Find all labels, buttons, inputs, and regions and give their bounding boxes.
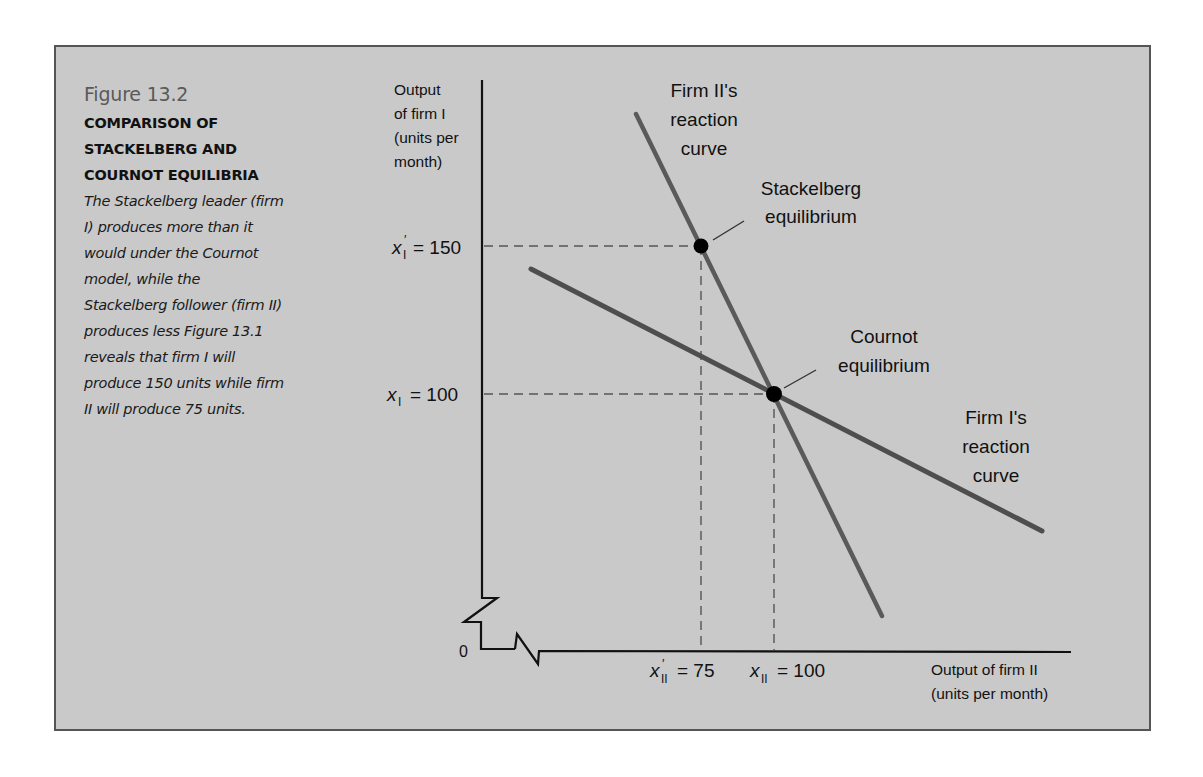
svg-text:Output of firm II: Output of firm II (931, 661, 1038, 678)
svg-text:Cournot: Cournot (850, 326, 918, 347)
x-tick-stackelberg: x ′ II = 75 (649, 656, 715, 686)
svg-text:reaction: reaction (670, 109, 738, 130)
svg-text:Firm II's: Firm II's (671, 80, 738, 101)
y-tick-stackelberg: x ′ I = 150 (391, 232, 461, 262)
firm1-reaction-curve (531, 269, 1042, 531)
svg-text:x: x (391, 237, 403, 258)
svg-text:Firm I's: Firm I's (965, 407, 1027, 428)
y-axis-label: Output of firm I (units per month) (394, 81, 459, 170)
stackelberg-equilibrium-point (694, 239, 709, 254)
firm2-curve-label: Firm II's reaction curve (670, 80, 738, 159)
y-axis (464, 80, 515, 649)
svg-text:x: x (649, 660, 661, 681)
x-axis-label: Output of firm II (units per month) (931, 661, 1048, 702)
stackelberg-pointer (713, 221, 744, 240)
svg-text:equilibrium: equilibrium (765, 206, 857, 227)
svg-text:Stackelberg: Stackelberg (761, 178, 861, 199)
stackelberg-label: Stackelberg equilibrium (761, 178, 861, 227)
svg-text:= 150: = 150 (413, 237, 461, 258)
svg-text:= 100: = 100 (410, 384, 458, 405)
x-tick-cournot: x II = 100 (749, 660, 825, 686)
svg-text:x: x (749, 660, 761, 681)
svg-text:= 75: = 75 (677, 660, 715, 681)
y-tick-cournot: x I = 100 (386, 384, 458, 409)
cournot-pointer (784, 370, 816, 388)
svg-text:I: I (398, 395, 401, 409)
svg-text:′: ′ (662, 656, 665, 671)
svg-text:curve: curve (973, 465, 1019, 486)
svg-text:equilibrium: equilibrium (838, 355, 930, 376)
cournot-equilibrium-point (766, 386, 782, 402)
svg-text:curve: curve (681, 138, 727, 159)
svg-text:x: x (386, 384, 398, 405)
svg-text:(units per month): (units per month) (931, 685, 1048, 702)
svg-text:′: ′ (404, 232, 407, 247)
svg-text:= 100: = 100 (777, 660, 825, 681)
svg-text:of firm I: of firm I (394, 105, 446, 122)
reaction-curve-chart: Output of firm I (units per month) x ′ I… (0, 0, 1203, 777)
svg-text:reaction: reaction (962, 436, 1030, 457)
svg-text:month): month) (394, 153, 442, 170)
cournot-label: Cournot equilibrium (838, 326, 930, 376)
firm1-curve-label: Firm I's reaction curve (962, 407, 1030, 486)
svg-text:II: II (661, 672, 668, 686)
svg-text:Output: Output (394, 81, 441, 98)
svg-text:I: I (403, 248, 406, 262)
svg-text:(units per: (units per (394, 129, 459, 146)
svg-text:II: II (761, 672, 768, 686)
origin-label: 0 (459, 643, 468, 660)
